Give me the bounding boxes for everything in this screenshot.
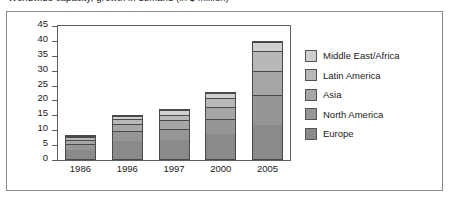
bar-segment[interactable]: [160, 129, 189, 140]
x-axis-labels: 19861996199720002005: [57, 163, 291, 179]
legend-item[interactable]: North America: [305, 105, 439, 125]
legend-item[interactable]: Middle East/Africa: [305, 46, 439, 66]
x-axis-tick-label: 2005: [244, 163, 291, 175]
bar-segment[interactable]: [206, 119, 235, 135]
bar-segment[interactable]: [113, 124, 142, 131]
legend-item[interactable]: Europe: [305, 124, 439, 144]
x-axis-tick-label: 2000: [197, 163, 244, 175]
y-axis-tick-label: 0: [43, 153, 48, 163]
legend-swatch: [305, 69, 317, 81]
figure-title: Worldwide capacity, growth in demand (in…: [8, 0, 229, 3]
x-axis-tick-label: 1996: [104, 163, 151, 175]
bar-segment[interactable]: [253, 125, 282, 159]
figure-frame: 454035302520151050 19861996199720002005 …: [6, 11, 443, 191]
bar-segment[interactable]: [160, 120, 189, 129]
legend-label: Asia: [323, 90, 341, 100]
stacked-bar[interactable]: [112, 115, 143, 160]
legend-item[interactable]: Asia: [305, 85, 439, 105]
y-axis-tick-label: 20: [37, 93, 48, 103]
bars-layer: [57, 25, 291, 161]
y-axis-tick-label: 10: [37, 123, 48, 133]
bar-segment[interactable]: [253, 51, 282, 72]
plot-area: [57, 25, 291, 161]
y-axis-tick-label: 35: [37, 49, 48, 59]
legend-swatch: [305, 108, 317, 120]
bar-segment[interactable]: [206, 98, 235, 107]
stacked-bar[interactable]: [159, 109, 190, 160]
bar-segment[interactable]: [160, 140, 189, 159]
bar-segment[interactable]: [206, 134, 235, 159]
y-axis: 454035302520151050: [7, 25, 57, 161]
legend-label: Latin America: [323, 71, 381, 81]
clipped-title-strip: Worldwide capacity, growth in demand (in…: [0, 0, 450, 10]
bar-segment[interactable]: [113, 131, 142, 141]
legend-swatch: [305, 89, 317, 101]
bar-segment[interactable]: [66, 150, 95, 159]
stacked-bar[interactable]: [205, 92, 236, 160]
y-axis-tick-label: 45: [37, 19, 48, 29]
y-axis-tick-label: 40: [37, 34, 48, 44]
y-axis-tick-label: 30: [37, 64, 48, 74]
legend-swatch: [305, 50, 317, 62]
bar-segment[interactable]: [206, 107, 235, 119]
y-axis-tick-label: 15: [37, 108, 48, 118]
x-axis-tick-label: 1986: [57, 163, 104, 175]
stacked-bar[interactable]: [252, 41, 283, 160]
stacked-bar[interactable]: [65, 135, 96, 160]
legend-label: Middle East/Africa: [323, 51, 400, 61]
bar-segment[interactable]: [253, 71, 282, 94]
legend-swatch: [305, 128, 317, 140]
bar-segment[interactable]: [253, 95, 282, 126]
y-axis-tick-label: 25: [37, 79, 48, 89]
legend-item[interactable]: Latin America: [305, 66, 439, 86]
legend-label: North America: [323, 110, 383, 120]
bar-segment[interactable]: [253, 42, 282, 51]
legend-label: Europe: [323, 129, 354, 139]
y-axis-tick-label: 5: [43, 138, 48, 148]
x-axis-tick-label: 1997: [151, 163, 198, 175]
chart-legend: Middle East/AfricaLatin AmericaAsiaNorth…: [305, 46, 439, 144]
bar-segment[interactable]: [113, 141, 142, 159]
